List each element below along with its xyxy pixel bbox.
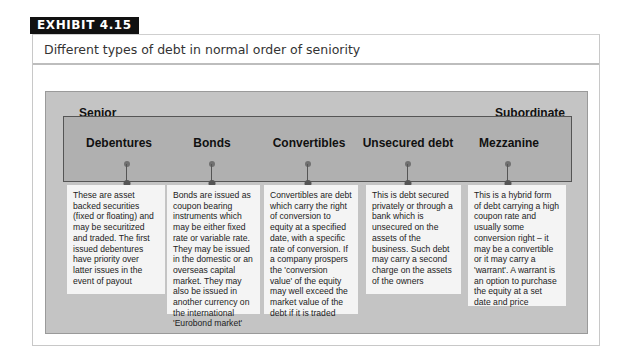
connector-dot-icon	[124, 161, 130, 167]
debt-description-bonds: Bonds are issued as coupon bearing instr…	[167, 185, 260, 314]
exhibit-frame: Different types of debt in normal order …	[32, 34, 600, 346]
connector-dot-icon	[209, 161, 215, 167]
debt-heading-debentures: Debentures	[86, 136, 152, 150]
debt-description-mezzanine: This is a hybrid form of debt carrying a…	[468, 185, 566, 306]
connector-dot-icon	[505, 161, 511, 167]
debt-description-convertibles: Convertibles are debt which carry the ri…	[264, 185, 358, 314]
debt-heading-unsecured-debt: Unsecured debt	[363, 136, 454, 150]
debt-description-unsecured-debt: This is debt secured privately or throug…	[366, 185, 461, 294]
exhibit-label: EXHIBIT 4.15	[30, 17, 139, 34]
exhibit-title-bar: Different types of debt in normal order …	[33, 35, 599, 65]
seniority-panel: Senior Subordinate Debentures These are …	[45, 91, 588, 334]
exhibit-title: Different types of debt in normal order …	[44, 42, 360, 57]
debt-heading-mezzanine: Mezzanine	[479, 136, 539, 150]
connector-dot-icon	[305, 161, 311, 167]
debt-heading-convertibles: Convertibles	[273, 136, 346, 150]
debt-description-debentures: These are asset backed securities (fixed…	[67, 185, 165, 294]
debt-heading-bonds: Bonds	[193, 136, 230, 150]
connector-dot-icon	[405, 161, 411, 167]
